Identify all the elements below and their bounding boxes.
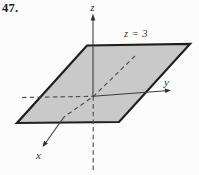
- x-axis-label: x: [35, 149, 41, 161]
- z-axis-arrowhead: [91, 14, 96, 21]
- plane-equation-label: z = 3: [123, 28, 148, 39]
- y-axis-arrowhead: [165, 88, 171, 93]
- x-axis-arrowhead: [43, 141, 48, 147]
- coordinate-diagram: z y x z = 3: [0, 0, 199, 175]
- y-axis-label: y: [163, 76, 169, 88]
- exercise-figure: 47. z y x z = 3: [0, 0, 199, 175]
- z-axis-label: z: [89, 1, 95, 13]
